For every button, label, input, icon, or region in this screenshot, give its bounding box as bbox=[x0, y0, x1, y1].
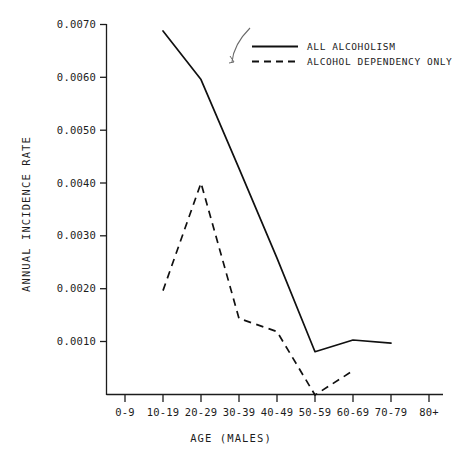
y-tick-label: 0.0030 bbox=[30, 229, 96, 241]
x-axis-ticks bbox=[125, 395, 429, 402]
scan-pen-mark-icon bbox=[232, 28, 250, 62]
x-tick-label-80-plus: 80+ bbox=[399, 406, 459, 418]
y-axis-title: ANNUAL INCIDENCE RATE bbox=[20, 114, 32, 314]
y-tick-label: 0.0040 bbox=[30, 177, 96, 189]
y-tick-label: 0.0070 bbox=[30, 18, 96, 30]
axes bbox=[107, 24, 444, 395]
chart-figure: 0.0070 0.0060 0.0050 0.0040 0.0030 0.002… bbox=[0, 0, 462, 465]
y-tick-label: 0.0020 bbox=[30, 282, 96, 294]
legend-label-alcohol-dependency-only: ALCOHOL DEPENDENCY ONLY bbox=[307, 56, 452, 67]
y-tick-label: 0.0010 bbox=[30, 335, 96, 347]
y-tick-label: 0.0060 bbox=[30, 71, 96, 83]
x-axis-title: AGE (MALES) bbox=[0, 432, 462, 444]
y-axis-ticks bbox=[100, 25, 107, 342]
legend-label-all-alcoholism: ALL ALCOHOLISM bbox=[307, 41, 395, 52]
y-tick-label: 0.0050 bbox=[30, 124, 96, 136]
